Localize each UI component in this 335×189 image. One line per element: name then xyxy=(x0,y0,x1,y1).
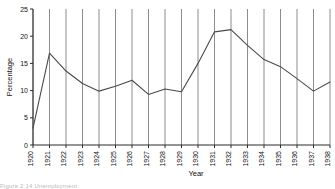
x-tick-label: 1924 xyxy=(93,151,100,167)
y-axis-ticks: 0510152025 xyxy=(20,6,33,149)
y-tick-label: 5 xyxy=(24,114,28,121)
x-tick-label: 1926 xyxy=(126,151,133,167)
y-tick-label: 15 xyxy=(20,60,28,67)
x-tick-label: 1937 xyxy=(308,151,315,167)
x-tick-label: 1928 xyxy=(159,151,166,167)
x-tick-label: 1931 xyxy=(209,151,216,167)
y-tick-label: 0 xyxy=(24,142,28,149)
figure-caption: Figure 2.14 Unemployment xyxy=(0,182,335,189)
x-axis-tick-labels: 1920192119221923192419251926192719281929… xyxy=(27,151,331,167)
x-tick-label: 1934 xyxy=(258,151,265,167)
x-tick-label: 1933 xyxy=(242,151,249,167)
x-tick-label: 1938 xyxy=(324,151,331,167)
x-tick-label: 1936 xyxy=(291,151,298,167)
y-tick-label: 10 xyxy=(20,87,28,94)
x-tick-label: 1921 xyxy=(44,151,51,167)
x-tick-label: 1930 xyxy=(192,151,199,167)
x-tick-label: 1929 xyxy=(176,151,183,167)
y-tick-label: 20 xyxy=(20,33,28,40)
x-tick-label: 1927 xyxy=(143,151,150,167)
x-tick-label: 1925 xyxy=(110,151,117,167)
x-tick-label: 1920 xyxy=(27,151,34,167)
x-tick-label: 1923 xyxy=(77,151,84,167)
y-axis-title: Percentage xyxy=(5,58,14,96)
x-tick-label: 1935 xyxy=(275,151,282,167)
x-tick-label: 1922 xyxy=(60,151,67,167)
x-axis-title: Year xyxy=(188,169,204,178)
y-tick-label: 25 xyxy=(20,6,28,13)
line-chart: 0510152025 19201921192219231924192519261… xyxy=(0,0,335,189)
figure-container: 0510152025 19201921192219231924192519261… xyxy=(0,0,335,189)
x-tick-label: 1932 xyxy=(225,151,232,167)
